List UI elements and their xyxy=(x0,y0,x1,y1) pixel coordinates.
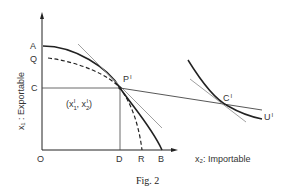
diagram-fig-2: A Q C O D R B PI CI UI (x1I, x2I) x₁ : E… xyxy=(0,0,292,192)
label-D: D xyxy=(116,154,123,164)
indifference-curve-U1 xyxy=(188,60,262,119)
label-U1-base: U xyxy=(264,112,271,122)
coord-close: ) xyxy=(89,99,92,109)
label-R: R xyxy=(138,154,145,164)
label-P1: PI xyxy=(123,74,132,84)
label-origin: O xyxy=(37,154,44,164)
production-frontier-AB xyxy=(43,46,162,150)
axes xyxy=(40,12,178,152)
label-C1-sup: I xyxy=(231,93,233,99)
label-U1-sup: I xyxy=(272,112,274,118)
label-P1-sup: I xyxy=(130,74,132,80)
label-C: C xyxy=(31,83,38,93)
label-Q: Q xyxy=(30,54,37,64)
label-A: A xyxy=(30,41,36,51)
point-P1-marker xyxy=(118,86,121,89)
figure-caption: Fig. 2 xyxy=(136,175,159,186)
label-U1: UI xyxy=(264,112,274,122)
production-frontier-QR xyxy=(48,58,142,150)
label-P1-base: P xyxy=(123,74,129,84)
trade-line-C-P1-C1 xyxy=(120,88,262,110)
coord-sep: , x xyxy=(77,99,87,109)
coordinate-label-P1: (x1I, x2I) xyxy=(66,98,92,111)
y-axis-arrow xyxy=(40,12,44,19)
y-axis-label: x₁ : Exportable xyxy=(16,72,26,130)
x-axis-arrow xyxy=(171,148,178,152)
label-C1: CI xyxy=(223,93,233,103)
label-C1-base: C xyxy=(223,93,230,103)
guide-lines xyxy=(42,88,120,150)
label-B: B xyxy=(158,154,164,164)
x-axis-label: x₂: Importable xyxy=(195,154,251,164)
